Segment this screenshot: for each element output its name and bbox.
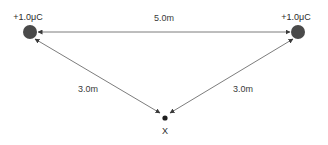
charge-right-label: +1.0μC xyxy=(281,12,311,22)
charge-left-label: +1.0μC xyxy=(13,12,43,22)
physics-diagram-canvas: +1.0μC +1.0μC 5.0m 3.0m 3.0m X xyxy=(0,0,328,145)
charge-left-dot xyxy=(23,25,37,39)
field-point-x-label: X xyxy=(162,126,168,136)
diagram-svg: +1.0μC +1.0μC 5.0m 3.0m 3.0m X xyxy=(0,0,328,145)
charge-right-dot xyxy=(291,25,305,39)
dimension-line-right xyxy=(170,39,293,113)
field-point-x-dot xyxy=(162,115,167,120)
dimension-label-left: 3.0m xyxy=(78,84,98,94)
dimension-line-left xyxy=(35,39,160,113)
dimension-label-right: 3.0m xyxy=(233,84,253,94)
dimension-label-top: 5.0m xyxy=(154,13,174,23)
